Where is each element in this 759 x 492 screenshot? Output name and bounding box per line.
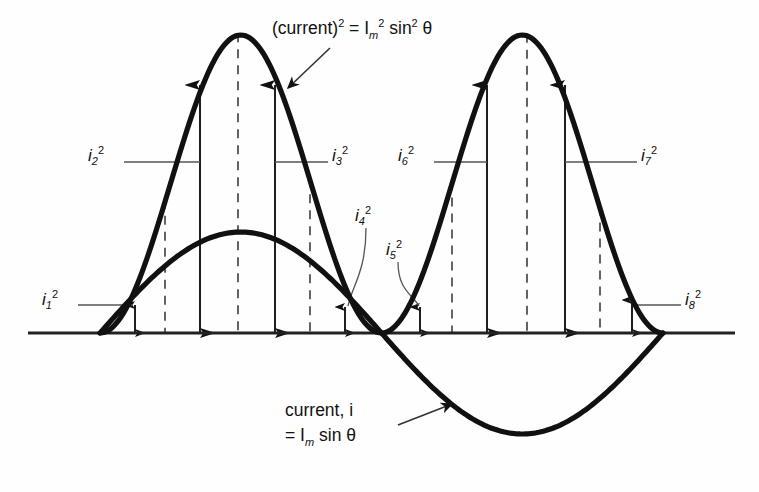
label-i5: i52 xyxy=(386,239,402,261)
sine-curve-label: current, i = Im sin θ xyxy=(285,398,356,451)
label-i7: i72 xyxy=(641,145,657,167)
figure-svg xyxy=(0,0,759,492)
squared-curve-pointer xyxy=(288,48,330,88)
dashed-guide-lines xyxy=(165,33,600,333)
label-i4: i42 xyxy=(355,205,371,227)
squared-curve-label-text: (current)2 = Im2 sin2 θ xyxy=(272,18,432,38)
sine-curve-pointer xyxy=(398,404,452,425)
figure-canvas: (current)2 = Im2 sin2 θ current, i = Im … xyxy=(0,0,759,492)
sine-squared-curve xyxy=(100,35,663,333)
squared-curve-label: (current)2 = Im2 sin2 θ xyxy=(272,16,432,43)
sample-measure-arrows xyxy=(135,85,632,333)
label-i3: i32 xyxy=(332,145,348,167)
label-i2: i22 xyxy=(88,145,104,167)
label-i1: i12 xyxy=(42,289,58,311)
leader-i5-curve xyxy=(398,262,419,306)
label-i6: i62 xyxy=(398,145,414,167)
label-i8: i82 xyxy=(685,289,701,311)
sine-curve-label-line2: = Im sin θ xyxy=(285,423,356,450)
sine-curve-label-line1: current, i xyxy=(285,398,356,423)
